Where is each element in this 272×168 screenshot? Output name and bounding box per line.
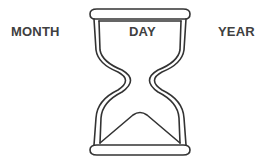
- hourglass-icon: [0, 0, 272, 168]
